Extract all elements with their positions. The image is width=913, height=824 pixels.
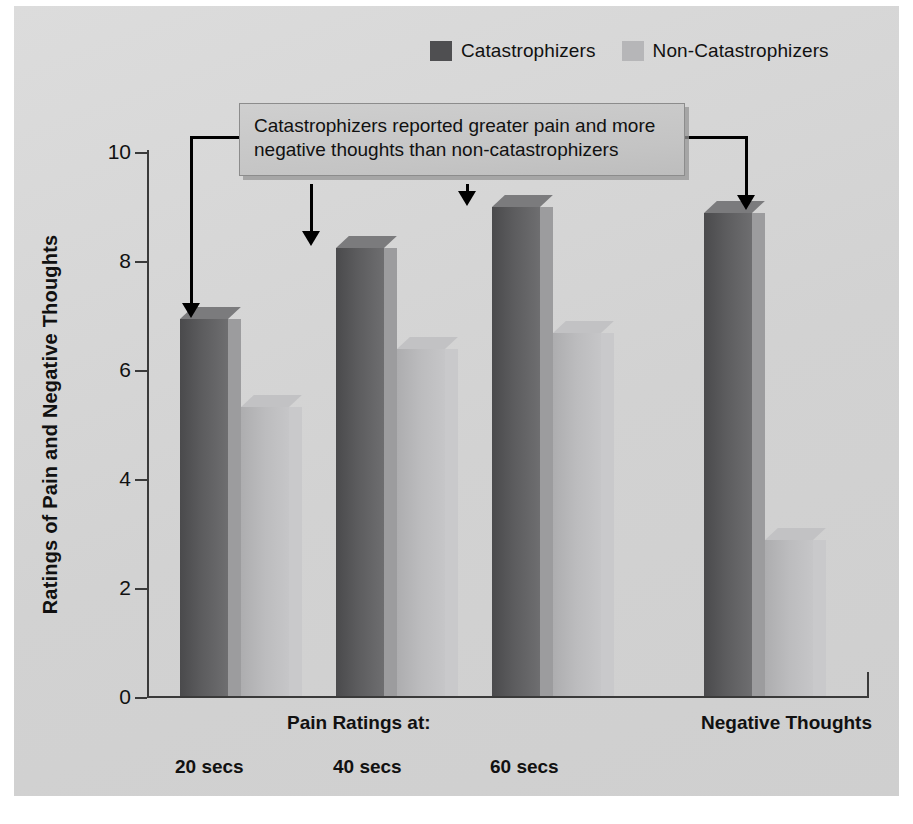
y-axis-title: Ratings of Pain and Negative Thoughts (36, 150, 66, 698)
plot-area: 10 8 6 4 2 0 (147, 150, 869, 698)
bar-non-catastrophizers-60secs (553, 333, 601, 696)
bar-cap (492, 195, 553, 207)
bar-catastrophizers-60secs (492, 207, 540, 696)
connector-left-horizontal (190, 136, 242, 139)
bar-non-catastrophizers-20secs (241, 407, 289, 696)
bar-front (180, 319, 228, 696)
figure-root: Catastrophizers Non-Catastrophizers Rati… (0, 0, 913, 824)
bar-front (241, 407, 289, 696)
bar-side (752, 213, 765, 696)
y-axis-line (147, 150, 149, 698)
legend-swatch-non-catastrophizers (622, 41, 644, 61)
bar-catastrophizers-40secs (336, 248, 384, 696)
bar-side (540, 207, 553, 696)
bar-side (289, 407, 302, 696)
y-tick-label-2: 2 (119, 576, 131, 600)
legend-item-non-catastrophizers: Non-Catastrophizers (622, 40, 829, 62)
bar-side (445, 349, 458, 696)
x-axis-line (147, 696, 869, 698)
bar-catastrophizers-negative-thoughts (704, 213, 752, 696)
bar-non-catastrophizers-40secs (397, 349, 445, 696)
bar-non-catastrophizers-negative-thoughts (765, 540, 813, 696)
y-axis-title-text: Ratings of Pain and Negative Thoughts (40, 234, 63, 614)
y-tick-4 (135, 479, 147, 481)
y-tick-8 (135, 261, 147, 263)
bar-side (601, 333, 614, 696)
x-tick-label-20secs: 20 secs (175, 756, 244, 778)
connector-40secs-vertical (310, 184, 313, 234)
bar-front (704, 213, 752, 696)
bar-front (336, 248, 384, 696)
annotation-line-2: negative thoughts than non-catastrophize… (254, 138, 670, 162)
bar-front (397, 349, 445, 696)
x-tick-label-40secs: 40 secs (333, 756, 402, 778)
connector-right-vertical (745, 136, 748, 198)
bar-side (384, 248, 397, 696)
bar-side (813, 540, 826, 696)
bar-front (765, 540, 813, 696)
bar-front (492, 207, 540, 696)
chart-legend: Catastrophizers Non-Catastrophizers (430, 38, 829, 64)
y-tick-6 (135, 370, 147, 372)
bar-cap (553, 321, 614, 333)
y-tick-label-6: 6 (119, 358, 131, 382)
bar-cap (241, 395, 302, 407)
y-tick-2 (135, 588, 147, 590)
connector-left-vertical (190, 136, 193, 306)
bar-cap (704, 201, 765, 213)
bar-catastrophizers-20secs (180, 319, 228, 696)
bar-front (553, 333, 601, 696)
y-tick-label-10: 10 (108, 140, 131, 164)
y-tick-label-0: 0 (119, 685, 131, 709)
connector-right-horizontal (683, 136, 748, 139)
x-group-title-pain-ratings: Pain Ratings at: (287, 712, 431, 734)
bar-side (228, 319, 241, 696)
y-tick-label-8: 8 (119, 249, 131, 273)
y-tick-label-4: 4 (119, 467, 131, 491)
bar-cap (336, 236, 397, 248)
legend-swatch-catastrophizers (430, 41, 452, 61)
arrowhead-40secs (302, 231, 320, 246)
y-tick-0 (135, 697, 147, 699)
right-axis-stub (867, 672, 869, 698)
bar-cap (397, 337, 458, 349)
x-group-title-negative-thoughts: Negative Thoughts (701, 712, 872, 734)
y-tick-10 (135, 152, 147, 154)
arrowhead-60secs (458, 191, 476, 206)
bar-cap (765, 528, 826, 540)
x-tick-label-60secs: 60 secs (490, 756, 559, 778)
arrowhead-20secs (182, 303, 200, 318)
figure-caption (14, 806, 574, 816)
arrowhead-negative-thoughts (737, 195, 755, 210)
legend-item-catastrophizers: Catastrophizers (430, 40, 596, 62)
annotation-line-1: Catastrophizers reported greater pain an… (254, 114, 670, 138)
legend-label-non-catastrophizers: Non-Catastrophizers (653, 40, 829, 62)
legend-label-catastrophizers: Catastrophizers (461, 40, 596, 62)
annotation-callout: Catastrophizers reported greater pain an… (239, 103, 685, 176)
